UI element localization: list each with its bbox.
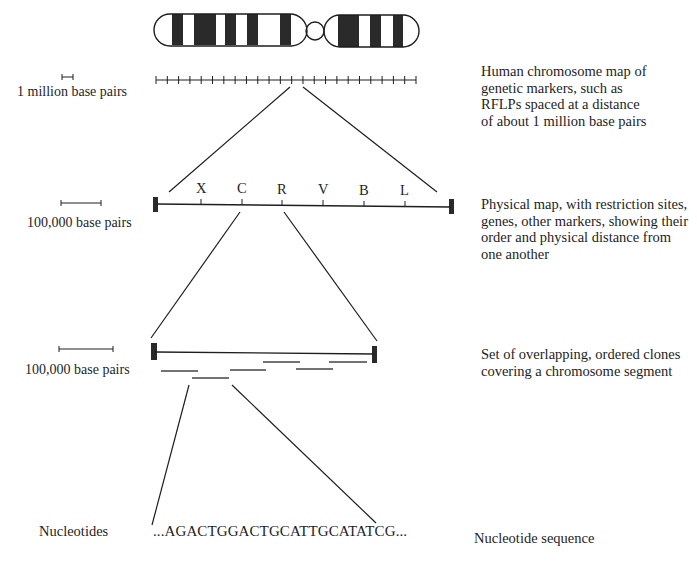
chromosome-ideogram <box>154 14 419 47</box>
scale-label-1mb: 1 million base pairs <box>17 84 127 101</box>
zoom-lines-2 <box>151 212 377 341</box>
marker-label: R <box>277 181 287 198</box>
description-physical-map: Physical map, with restriction sites, ge… <box>481 196 697 262</box>
marker-label: B <box>359 182 369 199</box>
scale-label-100kb-physical: 100,000 base pairs <box>27 215 132 232</box>
clones <box>161 362 367 378</box>
description-chromosome-map: Human chromosome map of genetic markers,… <box>481 63 697 129</box>
centromere <box>306 22 324 40</box>
physical-map <box>153 197 454 214</box>
marker-label: V <box>318 181 328 198</box>
scale-label-100kb-clones: 100,000 base pairs <box>25 362 130 379</box>
nucleotides-label: Nucleotides <box>39 523 108 540</box>
zoom-lines-1 <box>169 87 437 192</box>
clone-contig-map <box>151 343 377 378</box>
right-arm-bands <box>338 15 403 47</box>
scale-bar-1mb <box>62 74 73 80</box>
nucleotide-sequence: ...AGACTGGACTGCATTGCATATCG... <box>153 523 407 540</box>
genetic-marker-ruler <box>156 76 416 84</box>
marker-label: C <box>237 180 247 197</box>
left-arm-bands <box>172 14 291 45</box>
marker-label: L <box>400 182 409 199</box>
scale-bar-100kb-clones <box>59 346 113 352</box>
marker-label: X <box>196 180 206 197</box>
zoom-lines-3 <box>152 385 376 525</box>
description-clone-map: Set of overlapping, ordered clones cover… <box>481 346 697 379</box>
description-sequence: Nucleotide sequence <box>474 530 690 547</box>
scale-bar-100kb-physical <box>61 200 101 206</box>
